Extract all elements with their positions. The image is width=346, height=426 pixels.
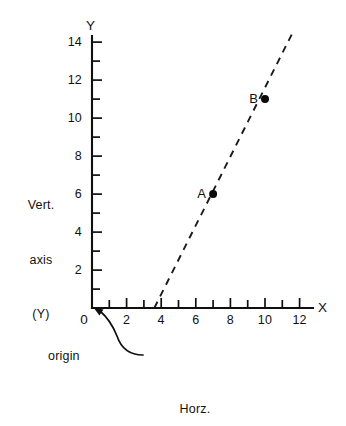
y-axis-title: Vert. axis (Y) [28, 160, 55, 359]
x-tick-label-6: 6 [192, 313, 199, 328]
x-tick-label-10: 10 [258, 313, 272, 328]
y-tick-label-4: 4 [52, 225, 82, 240]
y-axis-ticks [92, 42, 102, 289]
y-tick-label-10: 10 [52, 111, 82, 126]
x-axis-ticks [109, 298, 299, 308]
y-tick-label-12: 12 [52, 73, 82, 88]
y-axis-title-line2: axis [28, 251, 55, 269]
axes-group [92, 36, 313, 308]
x-axis-title: Horz. axis (X) [180, 364, 211, 426]
x-axis-letter: X [318, 300, 327, 316]
trend-line [154, 33, 292, 309]
y-axis-title-line3: (Y) [28, 305, 55, 323]
x-tick-label-12: 12 [292, 313, 306, 328]
data-point-b-label: B [249, 91, 258, 106]
x-tick-label-4: 4 [158, 313, 165, 328]
x-tick-label-2: 2 [123, 313, 130, 328]
y-tick-label-2: 2 [52, 263, 82, 278]
x-axis-title-line1: Horz. [180, 400, 211, 418]
y-axis-title-line1: Vert. [28, 196, 55, 214]
x-tick-label-8: 8 [227, 313, 234, 328]
data-point-a [209, 190, 217, 198]
y-tick-label-14: 14 [52, 35, 82, 50]
data-point-b [261, 95, 269, 103]
y-axis-letter: Y [86, 18, 95, 34]
y-tick-label-6: 6 [52, 187, 82, 202]
origin-zero-label: 0 [80, 312, 88, 328]
data-point-a-label: A [197, 186, 206, 201]
y-tick-label-8: 8 [52, 149, 82, 164]
coordinate-plane-figure: Y X 14 12 10 8 6 4 2 2 4 6 8 10 12 0 A B… [0, 0, 346, 426]
origin-leader-line [100, 311, 143, 355]
